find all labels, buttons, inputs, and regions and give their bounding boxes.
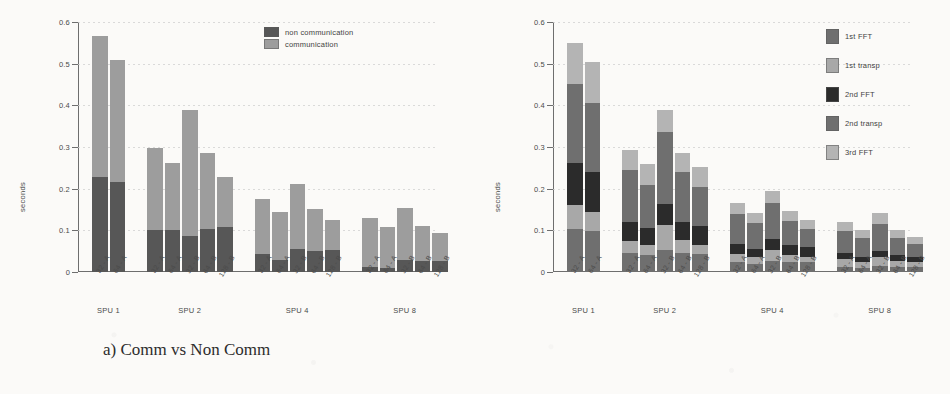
bar-segment	[800, 220, 816, 229]
bar-segment	[675, 172, 691, 222]
bar-segment	[837, 222, 853, 230]
y-axis-tick-label: 0.3	[44, 143, 70, 152]
bar-segment	[622, 241, 638, 253]
bar-segment	[307, 209, 323, 251]
y-axis-label-a: seconds	[18, 182, 27, 212]
bar-segment	[890, 238, 906, 256]
legend-item[interactable]: 3rd FFT	[826, 145, 882, 160]
bar[interactable]	[585, 62, 601, 272]
legend-swatch	[826, 87, 839, 102]
x-axis-group-label: SPU 4	[761, 306, 784, 315]
bar-segment	[585, 103, 601, 172]
bar-segment	[325, 220, 341, 250]
legend-item[interactable]: 1st transp	[826, 58, 882, 73]
y-axis-label-b: seconds	[493, 182, 502, 212]
y-axis-tick-label: 0	[44, 268, 70, 277]
bar-segment	[800, 229, 816, 248]
caption-a: a) Comm vs Non Comm	[103, 340, 270, 360]
bar-segment	[872, 213, 888, 223]
legend-label: non communication	[285, 28, 353, 37]
bar-segment	[692, 187, 708, 226]
legend-label: 3rd FFT	[845, 148, 873, 157]
bar-segment	[692, 226, 708, 244]
bar-series-a	[78, 22, 438, 272]
bar-segment	[765, 203, 781, 239]
bar-segment	[657, 225, 673, 250]
legend-swatch	[264, 39, 279, 49]
bar-segment	[397, 208, 413, 260]
figure-container: seconds 00.10.20.30.40.50.6 32 - A64 - A…	[0, 0, 950, 394]
bar-segment	[92, 36, 108, 178]
y-axis-tick-label: 0.3	[519, 143, 545, 152]
bar-segment	[182, 110, 198, 235]
bar-segment	[675, 153, 691, 172]
bar-segment	[730, 244, 746, 254]
bar-segment	[110, 60, 126, 183]
bar-segment	[255, 199, 271, 254]
y-axis-tick-label: 0.6	[44, 18, 70, 27]
bar-segment	[585, 62, 601, 103]
y-axis-tick	[72, 272, 78, 273]
bar[interactable]	[657, 110, 673, 272]
bar-segment	[567, 205, 583, 229]
x-axis-group-label: SPU 1	[97, 306, 120, 315]
bar-segment	[765, 191, 781, 204]
bar[interactable]	[110, 60, 126, 273]
bar-segment	[765, 239, 781, 250]
bar[interactable]	[92, 36, 108, 272]
bar-segment	[272, 212, 288, 260]
y-axis-tick-label: 0.4	[44, 101, 70, 110]
x-axis-group-label: SPU 2	[178, 306, 201, 315]
bar-segment	[675, 222, 691, 241]
plot-area-a: 00.10.20.30.40.50.6	[78, 22, 438, 272]
bar-segment	[872, 224, 888, 251]
legend-swatch	[826, 29, 839, 44]
bar-segment	[567, 163, 583, 206]
legend-item[interactable]: non communication	[264, 27, 353, 37]
bar-segment	[622, 150, 638, 171]
legend-label: 1st FFT	[845, 32, 872, 41]
bar-segment	[692, 245, 708, 254]
bar-segment	[657, 110, 673, 132]
x-axis-group-label: SPU 2	[653, 306, 676, 315]
bar-segment	[837, 231, 853, 254]
bar-segment	[290, 184, 306, 249]
legend-swatch	[826, 145, 839, 160]
x-axis-group-label: SPU 8	[868, 306, 891, 315]
legend-b: 1st FFT1st transp2nd FFT2nd transp3rd FF…	[826, 29, 882, 174]
bar-segment	[585, 212, 601, 230]
y-axis-tick-label: 0.2	[44, 184, 70, 193]
bar-segment	[567, 84, 583, 163]
legend-item[interactable]: 2nd FFT	[826, 87, 882, 102]
bar-segment	[747, 223, 763, 248]
x-axis-group-label: SPU 8	[393, 306, 416, 315]
bar[interactable]	[567, 43, 583, 272]
legend-item[interactable]: 1st FFT	[826, 29, 882, 44]
bar[interactable]	[182, 110, 198, 272]
bar-segment	[217, 177, 233, 227]
bar-segment	[675, 240, 691, 253]
y-axis-tick-label: 0.2	[519, 184, 545, 193]
legend-item[interactable]: communication	[264, 39, 353, 49]
legend-swatch	[264, 27, 279, 37]
legend-item[interactable]: 2nd transp	[826, 116, 882, 131]
bar-segment	[657, 132, 673, 204]
chart-panel-a: seconds 00.10.20.30.40.50.6 32 - A64 - A…	[0, 0, 475, 394]
bar-segment	[640, 228, 656, 245]
bar-segment	[730, 214, 746, 244]
legend-label: 2nd FFT	[845, 90, 875, 99]
bar-segment	[200, 153, 216, 229]
legend-label: 1st transp	[845, 61, 880, 70]
bar-segment	[567, 43, 583, 84]
bar-segment	[657, 204, 673, 226]
bar-segment	[640, 164, 656, 185]
bar-segment	[622, 170, 638, 222]
bar-segment	[622, 222, 638, 241]
bar-segment	[855, 230, 871, 238]
bar-segment	[890, 230, 906, 238]
bar-segment	[165, 163, 181, 230]
bar-segment	[692, 167, 708, 187]
legend-label: 2nd transp	[845, 119, 882, 128]
y-axis-tick-label: 0.5	[44, 59, 70, 68]
bar-segment	[147, 148, 163, 230]
